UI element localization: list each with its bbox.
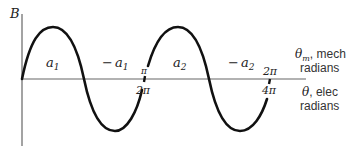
y-axis-label: B bbox=[9, 6, 20, 21]
tick-label-mech-2pi: 2π bbox=[262, 65, 278, 78]
x-axis-label-elec: θ, elec radians bbox=[300, 85, 339, 113]
region-label-a1: a1 bbox=[46, 55, 60, 72]
tick-2pi bbox=[144, 76, 145, 82]
svg-text:radians: radians bbox=[300, 99, 339, 113]
svg-text:a2: a2 bbox=[173, 55, 187, 72]
svg-text:−a2: −a2 bbox=[228, 55, 255, 72]
x-axis-label-mech: θm, mech radians bbox=[295, 47, 346, 75]
region-label-neg-a2: −a2 bbox=[228, 55, 255, 72]
svg-text:radians: radians bbox=[300, 61, 339, 75]
flux-density-waveform-diagram: B a1 −a1 a2 −a2 π 2π 2π 4π θm, mech radi… bbox=[0, 0, 350, 151]
region-label-a2: a2 bbox=[173, 55, 187, 72]
svg-text:a1: a1 bbox=[46, 55, 60, 72]
tick-label-elec-2pi: 2π bbox=[135, 84, 151, 97]
svg-text:θ, elec: θ, elec bbox=[302, 85, 338, 99]
tick-label-mech-pi: π bbox=[140, 66, 148, 76]
region-label-neg-a1: −a1 bbox=[102, 55, 128, 72]
svg-text:−a1: −a1 bbox=[102, 55, 128, 72]
tick-label-elec-4pi: 4π bbox=[261, 84, 277, 97]
